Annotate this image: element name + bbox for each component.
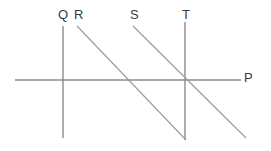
sloping-line-s bbox=[133, 26, 246, 138]
label-s: S bbox=[130, 8, 139, 21]
diagram-canvas: Q R S T P bbox=[0, 0, 271, 151]
label-p: P bbox=[244, 71, 253, 84]
diagram-svg bbox=[0, 0, 271, 151]
label-q: Q bbox=[58, 8, 68, 21]
label-r: R bbox=[74, 8, 83, 21]
label-t: T bbox=[182, 8, 190, 21]
sloping-line-r bbox=[77, 26, 186, 140]
